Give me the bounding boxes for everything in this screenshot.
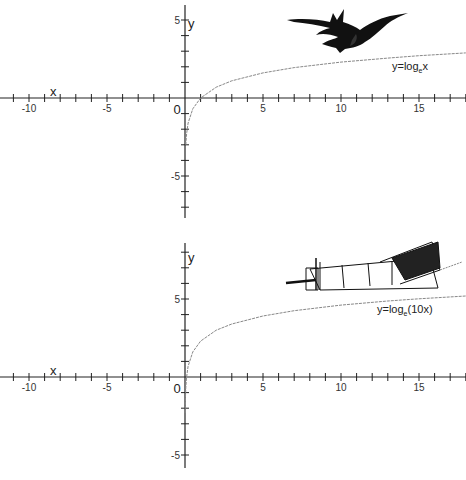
top-x-axis-label: x xyxy=(50,84,57,99)
x-tick-label: 5 xyxy=(260,382,266,393)
top-function-label: y=logex xyxy=(392,60,429,74)
top-x-axis: -10-5051015 xyxy=(0,94,466,117)
bottom-y-axis: -55 xyxy=(171,243,189,468)
x-tick-label: 5 xyxy=(260,103,266,114)
bottom-y-axis-label: y xyxy=(188,250,195,265)
bottom-x-axis-label: x xyxy=(50,363,57,378)
x-tick-label: -10 xyxy=(22,382,37,393)
y-tick-label: 5 xyxy=(174,15,180,26)
bat-illustration xyxy=(287,9,408,53)
bottom-chart-ln-10x: -10-5051015 -55 x y y=loge(10x) xyxy=(0,242,466,468)
top-y-axis-label: y xyxy=(188,16,195,31)
biplane-illustration xyxy=(286,242,462,290)
y-tick-label: -5 xyxy=(171,171,180,182)
x-tick-label: -10 xyxy=(22,103,37,114)
x-tick-label: 15 xyxy=(413,103,425,114)
x-tick-label: 10 xyxy=(335,103,347,114)
x-tick-label: 0 xyxy=(173,102,180,117)
x-tick-label: -5 xyxy=(103,382,112,393)
x-tick-label: 15 xyxy=(413,382,425,393)
x-tick-label: 10 xyxy=(335,382,347,393)
y-tick-label: 5 xyxy=(174,294,180,305)
x-tick-label: 0 xyxy=(173,381,180,396)
top-chart-ln-x: -10-5051015 -55 x y y=logex xyxy=(0,5,466,218)
y-tick-label: -5 xyxy=(171,450,180,461)
log-graphs-figure: -10-5051015 -55 x y y=logex -10-5051015 … xyxy=(0,0,466,480)
bottom-x-axis: -10-5051015 xyxy=(0,373,466,396)
x-tick-label: -5 xyxy=(103,103,112,114)
bottom-function-label: y=loge(10x) xyxy=(377,303,433,317)
